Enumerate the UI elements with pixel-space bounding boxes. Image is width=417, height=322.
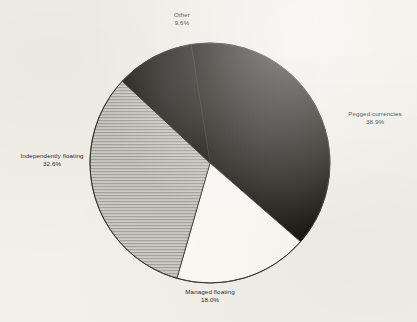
slice-label-pegged-currencies-name: Pegged currencies [337,110,413,118]
slice-label-pegged-currencies: Pegged currencies 38.9% [337,110,413,127]
slice-label-independently-floating-name: Independently floating [6,152,98,160]
slice-label-independently-floating: Independently floating 32.6% [6,152,98,169]
pie-chart: Other 9.6% Pegged currencies 38.9% Indep… [0,0,417,322]
pie-slices-group [90,43,330,283]
slice-label-other-name: Other [146,11,218,19]
slice-label-managed-floating: Managed floating 18.0% [168,288,252,305]
slice-label-pegged-currencies-value: 38.9% [337,118,413,126]
slice-label-independently-floating-value: 32.6% [6,160,98,168]
slice-label-other-value: 9.6% [146,19,218,27]
slice-label-managed-floating-name: Managed floating [168,288,252,296]
slice-label-other: Other 9.6% [146,11,218,28]
slice-label-managed-floating-value: 18.0% [168,296,252,304]
